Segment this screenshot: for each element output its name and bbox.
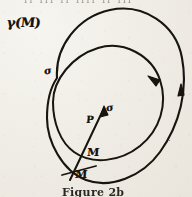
- point-m-upper-label: M: [87, 147, 100, 158]
- outer-curve-label: γ(M): [6, 16, 41, 29]
- figure-page: ıı ııı ıı ıııı ıı ııı: [0, 0, 192, 197]
- vector-label: σ: [106, 103, 114, 114]
- point-p-label: P: [85, 115, 94, 125]
- inner-curve-label: σ: [44, 66, 52, 76]
- figure-caption: Figure 2b: [62, 186, 124, 197]
- point-m-lower-label: M: [75, 169, 88, 180]
